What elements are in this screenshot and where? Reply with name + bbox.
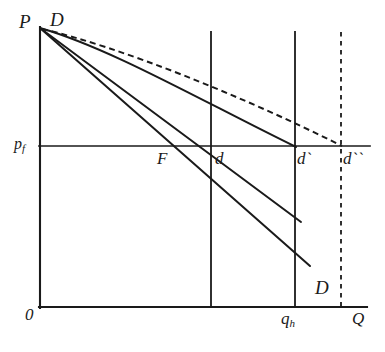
lower-demand-curve-label: D: [315, 278, 329, 297]
middle-demand-line: [40, 28, 301, 222]
steepest-demand-line: [40, 28, 310, 266]
diagram-canvas: [0, 0, 385, 352]
upper-demand-curve-label: D: [50, 10, 64, 29]
quantity-marker-base: q: [281, 309, 290, 328]
intersection-label-d-prime: d`: [297, 150, 311, 167]
economics-diagram: P D pf F d d` d`` D 0 qh Q: [0, 0, 385, 352]
dashed-demand-line: [42, 29, 342, 146]
intersection-label-f: F: [157, 150, 167, 167]
flattest-demand-line: [40, 28, 296, 147]
vertical-axis-label: P: [19, 12, 31, 31]
price-level-label: pf: [14, 136, 25, 152]
origin-label: 0: [25, 306, 34, 323]
horizontal-axis-label: Q: [352, 310, 364, 327]
quantity-marker-subscript: h: [290, 317, 296, 329]
price-level-base: p: [14, 135, 22, 152]
quantity-marker-label: qh: [281, 310, 295, 327]
intersection-label-d-double-prime: d``: [343, 150, 363, 167]
intersection-label-d: d: [215, 150, 224, 167]
price-level-subscript: f: [22, 142, 25, 154]
